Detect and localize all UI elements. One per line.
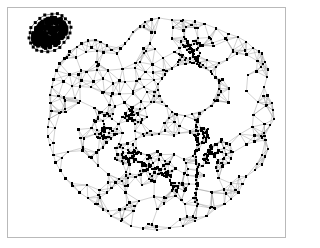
graph-node <box>178 47 180 49</box>
graph-node <box>132 90 134 92</box>
island-node <box>51 42 54 45</box>
graph-node <box>172 26 174 28</box>
graph-node <box>196 121 198 123</box>
graph-node <box>77 73 79 75</box>
graph-node <box>98 189 100 191</box>
graph-node <box>126 142 128 144</box>
graph-node <box>153 101 155 103</box>
graph-node <box>108 127 110 129</box>
graph-node <box>144 71 146 73</box>
graph-node <box>261 52 263 54</box>
graph-node <box>140 152 142 154</box>
graph-node <box>112 82 114 84</box>
graph-node <box>201 44 203 46</box>
graph-node <box>186 174 188 176</box>
graph-node <box>199 62 201 64</box>
graph-node <box>198 148 200 150</box>
graph-node <box>139 161 141 163</box>
graph-node <box>194 56 196 58</box>
graph-node <box>149 165 151 167</box>
graph-node <box>170 182 172 184</box>
graph-node <box>214 100 216 102</box>
graph-node <box>163 202 165 204</box>
graph-node <box>258 50 260 52</box>
graph-node <box>94 133 96 135</box>
graph-node <box>124 208 126 210</box>
graph-node <box>183 45 185 47</box>
graph-node <box>97 194 99 196</box>
island-node <box>42 34 45 37</box>
graph-node <box>150 31 152 33</box>
graph-node <box>142 133 144 135</box>
graph-node <box>102 146 104 148</box>
graph-node <box>153 91 155 93</box>
graph-node <box>151 223 153 225</box>
graph-node <box>226 58 228 60</box>
graph-node <box>263 86 265 88</box>
graph-node <box>125 171 127 173</box>
graph-node <box>127 149 129 151</box>
graph-node <box>153 95 155 97</box>
graph-node <box>189 61 191 63</box>
graph-node <box>198 112 200 114</box>
graph-node <box>217 149 219 151</box>
graph-node <box>67 151 69 153</box>
graph-node <box>192 215 194 217</box>
graph-node <box>263 123 265 125</box>
graph-node <box>188 51 190 53</box>
graph-node <box>143 52 145 54</box>
graph-node <box>180 20 182 22</box>
graph-node <box>211 42 213 44</box>
graph-node <box>168 227 170 229</box>
island-node <box>43 43 46 46</box>
graph-node <box>94 203 96 205</box>
graph-node <box>173 182 175 184</box>
graph-node <box>192 54 194 56</box>
graph-node <box>211 192 213 194</box>
graph-node <box>238 175 240 177</box>
graph-node <box>156 208 158 210</box>
graph-node <box>214 76 216 78</box>
graph-node <box>202 64 204 66</box>
graph-node <box>134 176 136 178</box>
graph-node <box>237 36 239 38</box>
graph-node <box>107 181 109 183</box>
graph-node <box>50 110 52 112</box>
graph-node <box>58 112 60 114</box>
graph-node <box>93 107 95 109</box>
graph-node <box>133 114 135 116</box>
graph-node <box>142 227 144 229</box>
graph-node <box>102 137 104 139</box>
graph-node <box>178 132 180 134</box>
graph-node <box>196 205 198 207</box>
graph-node <box>222 158 224 160</box>
graph-node <box>196 48 198 50</box>
graph-node <box>272 109 274 111</box>
graph-node <box>160 169 162 171</box>
graph-node <box>101 135 103 137</box>
graph-node <box>90 127 92 129</box>
graph-node <box>267 148 269 150</box>
graph-node <box>237 191 239 193</box>
graph-node-layer <box>47 17 276 232</box>
graph-node <box>214 152 216 154</box>
graph-node <box>206 59 208 61</box>
graph-node <box>110 95 112 97</box>
graph-node <box>116 128 118 130</box>
graph-node <box>194 217 196 219</box>
graph-node <box>198 42 200 44</box>
graph-node <box>260 66 262 68</box>
graph-node <box>163 196 165 198</box>
graph-node <box>195 188 197 190</box>
graph-node <box>164 129 166 131</box>
graph-node <box>101 91 103 93</box>
island-node <box>46 38 49 41</box>
island-node <box>57 35 60 38</box>
graph-node <box>137 152 139 154</box>
graph-node <box>195 129 197 131</box>
graph-node <box>186 45 188 47</box>
graph-node <box>216 170 218 172</box>
graph-node <box>128 201 130 203</box>
graph-node <box>49 144 51 146</box>
graph-node <box>173 153 175 155</box>
